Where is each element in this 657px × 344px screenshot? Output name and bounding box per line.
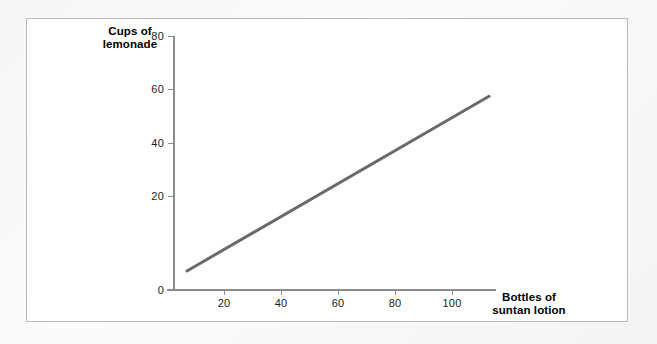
y-tick-60	[168, 89, 173, 90]
x-tick-label-60: 60	[318, 297, 358, 309]
y-tick-40	[168, 143, 173, 144]
y-axis-line	[173, 36, 175, 290]
x-axis-title: Bottles of suntan lotion	[477, 291, 581, 317]
y-tick-label-20: 20	[130, 190, 164, 202]
x-tick-80	[395, 290, 396, 295]
chart-panel: 80 60 40 20 0 20 40 60 80 100 Cups of le…	[26, 18, 628, 322]
series-line	[187, 96, 489, 271]
x-tick-60	[338, 290, 339, 295]
x-tick-label-80: 80	[375, 297, 415, 309]
y-axis-title: Cups of lemonade	[91, 25, 169, 51]
y-tick-label-40: 40	[130, 137, 164, 149]
x-tick-20	[224, 290, 225, 295]
series-plot	[27, 19, 629, 323]
y-tick-label-0: 0	[130, 284, 164, 296]
page-root: 80 60 40 20 0 20 40 60 80 100 Cups of le…	[0, 0, 657, 344]
plot-area: 80 60 40 20 0 20 40 60 80 100 Cups of le…	[27, 19, 627, 321]
x-tick-label-40: 40	[261, 297, 301, 309]
x-tick-label-20: 20	[204, 297, 244, 309]
x-tick-100	[452, 290, 453, 295]
x-axis-line	[167, 289, 496, 291]
x-tick-label-100: 100	[432, 297, 472, 309]
x-tick-40	[281, 290, 282, 295]
y-tick-label-60: 60	[130, 83, 164, 95]
y-tick-20	[168, 196, 173, 197]
